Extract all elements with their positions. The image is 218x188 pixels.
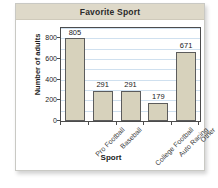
y-axis-tick-mark — [57, 99, 60, 100]
y-axis-ticks: 0200400600800 — [60, 27, 201, 122]
x-axis-tick-mark — [116, 122, 117, 125]
y-axis-tick-label: 400 — [45, 75, 57, 82]
chart-card: Favorite Sport Number of adults 80529129… — [15, 3, 205, 171]
x-axis-tick-mark — [143, 122, 144, 125]
y-axis-tick-label: 200 — [45, 96, 57, 103]
y-axis-tick-label: 600 — [45, 55, 57, 62]
x-axis-tick-mark — [171, 122, 172, 125]
y-axis-tick-mark — [57, 37, 60, 38]
chart-area: Number of adults 805291291179671 0200400… — [16, 20, 206, 172]
y-axis-tick-mark — [57, 58, 60, 59]
y-axis-tick-mark — [57, 120, 60, 121]
y-axis-tick-label: 0 — [53, 117, 57, 124]
chart-title-bar: Favorite Sport — [16, 4, 204, 20]
chart-title: Favorite Sport — [80, 7, 140, 17]
y-axis-tick-label: 800 — [45, 34, 57, 41]
x-axis-tick-mark — [88, 122, 89, 125]
x-axis-tick-mark — [198, 122, 199, 125]
x-axis-tick-mark — [60, 122, 61, 125]
y-axis-tick-mark — [57, 79, 60, 80]
y-axis-title: Number of adults — [33, 30, 42, 100]
x-axis-title: Sport — [16, 153, 206, 162]
